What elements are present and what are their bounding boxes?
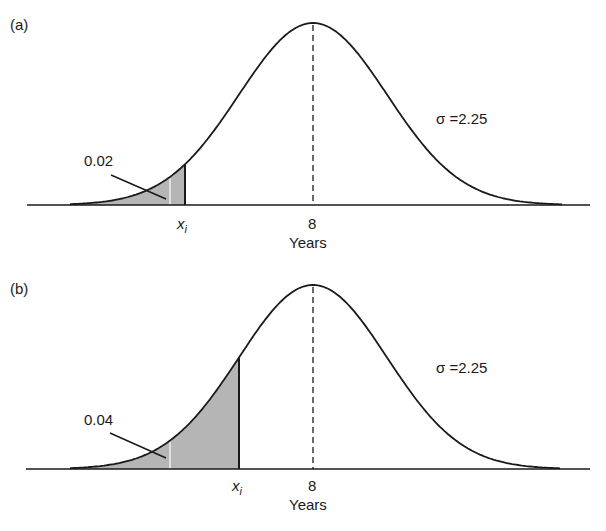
panel-b-xi-label: xi <box>231 477 243 497</box>
figure: (a) 0.02 xi 8 Years σ =2.25 (b) 0.04 xi … <box>0 0 606 531</box>
panel-b-callout-line <box>110 433 166 458</box>
panel-a-shaded-tail <box>70 164 185 205</box>
panel-b-area-label: 0.04 <box>84 411 113 428</box>
panel-a-xi-label: xi <box>176 215 188 235</box>
panel-a-normal-curve <box>70 23 562 204</box>
panel-b-label: (b) <box>10 280 28 297</box>
panel-a-mean-tick: 8 <box>308 215 316 232</box>
panel-b-sigma-label: σ =2.25 <box>436 359 487 376</box>
panel-a-area-label: 0.02 <box>84 152 113 169</box>
panel-b-mean-tick: 8 <box>308 477 316 494</box>
panel-a-label: (a) <box>10 16 28 33</box>
panel-b: (b) 0.04 xi 8 Years σ =2.25 <box>10 280 590 513</box>
panel-a-xlabel: Years <box>289 234 327 251</box>
panel-a-sigma-label: σ =2.25 <box>436 110 487 127</box>
panel-a: (a) 0.02 xi 8 Years σ =2.25 <box>10 16 590 251</box>
panel-b-normal-curve <box>70 285 560 468</box>
panel-b-xlabel: Years <box>289 496 327 513</box>
